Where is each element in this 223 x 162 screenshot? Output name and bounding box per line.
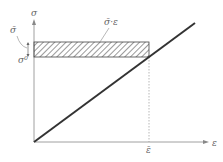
area-label: σ̄·ε (104, 17, 118, 27)
sigma-bar-label: σ̄ (10, 25, 17, 35)
sigma0-label: σ⁰ (18, 55, 28, 65)
area-leader (100, 28, 109, 42)
stress-strain-diagram: σ σ̄ σ⁰ σ̄·ε ε̄ ε (0, 0, 223, 162)
x-axis-label: ε (212, 138, 217, 148)
sigma-bar-leader (17, 36, 27, 48)
epsilon-bar-label: ε̄ (146, 145, 151, 155)
y-axis-label: σ (31, 8, 38, 18)
hatched-area (34, 42, 149, 57)
y-axis-arrow-icon (32, 19, 36, 25)
x-axis-arrow-icon (203, 140, 209, 144)
stress-strain-line (34, 23, 195, 142)
arrow-up-icon (27, 42, 30, 45)
